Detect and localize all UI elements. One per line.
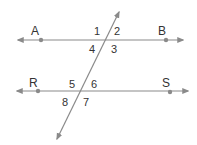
point-b-label: B: [158, 24, 166, 38]
point-r-label: R: [29, 76, 38, 90]
parallel-lines-diagram: A B R S 1 2 3 4 5 6 7 8: [0, 0, 197, 145]
angle-2-label: 2: [114, 25, 120, 37]
angle-8-label: 8: [62, 96, 68, 108]
angle-3-label: 3: [111, 43, 117, 55]
point-s-dot: [168, 90, 172, 94]
angle-6-label: 6: [91, 78, 97, 90]
point-a-dot: [39, 38, 43, 42]
angle-1-label: 1: [94, 25, 100, 37]
point-s-label: S: [162, 76, 170, 90]
transversal-line: [57, 12, 119, 139]
point-a-label: A: [31, 24, 39, 38]
angle-5-label: 5: [69, 78, 75, 90]
angle-7-label: 7: [83, 96, 89, 108]
point-b-dot: [164, 38, 168, 42]
angle-4-label: 4: [89, 43, 95, 55]
